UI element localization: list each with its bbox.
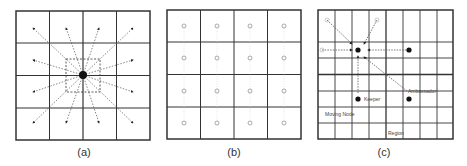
panel-c-diagram: Keeper Ambassador Moving Node Region [317,9,454,140]
region-label: Region [388,130,404,136]
ambassador-label: Ambassador [408,88,436,94]
panel-a [15,10,151,141]
panel-c: Keeper Ambassador Moving Node Region [317,9,454,140]
central-node-icon [79,71,87,79]
caption-b: (b) [214,146,254,158]
caption-a: (a) [64,146,104,158]
caption-c: (c) [364,146,404,158]
keeper-node-icon [355,47,360,52]
panel-a-diagram [15,10,151,141]
panel-b-diagram [166,9,302,140]
moving-node-label: Moving Node [325,111,355,117]
keeper-label: Keeper [364,96,380,102]
ambassador-node-icon [406,96,411,101]
panel-b [166,9,302,140]
